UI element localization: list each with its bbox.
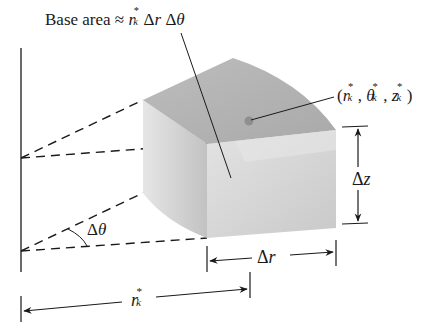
delta-z-label: Δz	[352, 170, 371, 188]
delta-theta-label: Δθ	[87, 221, 106, 238]
delta-r-label: Δr	[257, 248, 276, 266]
delta-theta-arc	[68, 229, 87, 246]
point-coordinates-label: (r*k , θ*k , z*k )	[337, 87, 412, 104]
base-area-prefix: Base area ≈	[45, 10, 128, 29]
base-area-label: Base area ≈ r*k Δr Δθ	[45, 11, 185, 28]
diagram-canvas	[0, 0, 439, 329]
cylindrical-volume-element-diagram: Base area ≈ r*k Δr Δθ (r*k , θ*k , z*k )…	[0, 0, 439, 329]
r-k-star-symbol: r*k	[128, 11, 135, 28]
r-k-star-label: r*k	[131, 291, 138, 309]
sample-point-dot	[245, 117, 254, 126]
